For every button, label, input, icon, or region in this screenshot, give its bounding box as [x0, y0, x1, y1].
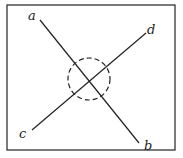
label-b: b — [144, 138, 152, 153]
dashed-circle — [68, 58, 110, 100]
line-c-d — [32, 33, 146, 130]
diagram-svg: a b c d — [0, 0, 183, 158]
diagram-canvas: a b c d — [0, 0, 183, 158]
label-a: a — [28, 8, 36, 23]
label-c: c — [19, 126, 27, 141]
label-d: d — [147, 22, 155, 37]
